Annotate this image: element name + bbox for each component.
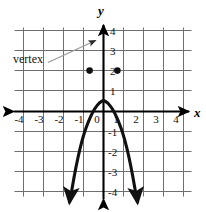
marked-point-left	[86, 67, 93, 74]
graph-canvas: vertex -4 -3 -2 -1 0 1 2 3 4 4 3 2 1 -1 …	[0, 0, 206, 212]
x-tick-label-3: 3	[153, 113, 159, 125]
y-tick-label-3: 3	[110, 45, 116, 57]
x-tick-label--4: -4	[14, 113, 24, 125]
vertex-leader-line	[48, 41, 96, 63]
y-tick-label--3: -3	[108, 166, 118, 178]
y-tick-label-4: 4	[110, 25, 116, 37]
y-axis-label: y	[96, 3, 104, 18]
vertex-annotation-label: vertex	[13, 52, 43, 66]
x-tick-label-1: 1	[113, 113, 119, 125]
y-tick-label-2: 2	[110, 65, 116, 77]
y-tick-label--1: -1	[108, 126, 117, 138]
x-tick-label--1: -1	[74, 113, 83, 125]
x-tick-label-0: 0	[94, 113, 100, 125]
x-tick-label--3: -3	[34, 113, 44, 125]
y-tick-label-1: 1	[110, 85, 116, 97]
x-tick-label-2: 2	[133, 113, 139, 125]
x-tick-label-4: 4	[173, 113, 179, 125]
y-tick-label--2: -2	[108, 146, 117, 158]
x-tick-label--2: -2	[54, 113, 63, 125]
y-tick-label--4: -4	[108, 186, 118, 198]
x-axis-label: x	[193, 105, 201, 120]
x-tick-labels: -4 -3 -2 -1 0 1 2 3 4	[14, 113, 179, 125]
parabola-graph-figure: vertex -4 -3 -2 -1 0 1 2 3 4 4 3 2 1 -1 …	[0, 0, 206, 212]
